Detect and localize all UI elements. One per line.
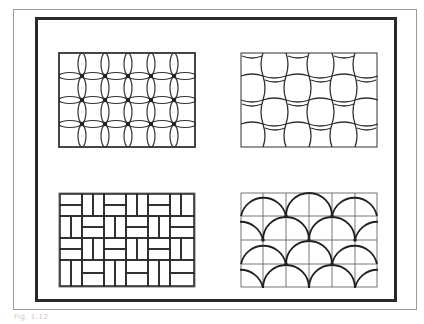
panel-fish-scale-arcs xyxy=(240,192,378,288)
panel-basket-weave xyxy=(240,52,378,148)
panel-herringbone-brick xyxy=(58,192,196,288)
panel-interlaced-ovals xyxy=(58,52,196,148)
figure-caption: Fig. 1.12 xyxy=(14,313,48,321)
